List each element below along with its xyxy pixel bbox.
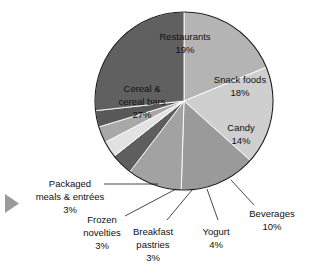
label-cereal-name-1: Cereal & <box>124 83 162 94</box>
label-cereal-value: 27% <box>132 109 152 120</box>
label-snack-foods-value: 18% <box>230 87 250 98</box>
leader-line-breakfast <box>167 190 192 220</box>
label-cereal-name-2: cereal bars <box>119 96 166 107</box>
label-candy-value: 14% <box>231 135 251 146</box>
label-frozen-value: 3% <box>95 240 109 251</box>
label-yogurt-name: Yogurt <box>202 226 229 237</box>
label-breakfast-name-1: Breakfast <box>133 226 173 237</box>
play-triangle-marker[interactable] <box>5 194 19 213</box>
label-breakfast-name-2: pastries <box>136 239 170 250</box>
label-yogurt-value: 4% <box>209 239 223 250</box>
label-packaged-name-2: meals & entrées <box>36 191 105 202</box>
label-restaurants-value: 19% <box>175 44 195 55</box>
outside-slice-labels: Packaged meals & entrées 3% Frozen novel… <box>36 178 295 263</box>
label-beverages-name: Beverages <box>249 208 295 219</box>
pie-chart-svg: Restaurants 19% Snack foods 18% Candy 14… <box>0 0 313 272</box>
label-packaged-value: 3% <box>63 204 77 215</box>
label-candy-name: Candy <box>227 122 255 133</box>
label-snack-foods-name: Snack foods <box>214 74 267 85</box>
label-frozen-name-2: novelties <box>83 227 121 238</box>
label-breakfast-value: 3% <box>146 252 160 263</box>
play-triangle-icon[interactable] <box>5 194 19 213</box>
label-frozen-name-1: Frozen <box>87 214 117 225</box>
label-restaurants-name: Restaurants <box>159 31 210 42</box>
label-beverages-value: 10% <box>262 221 282 232</box>
leader-line-frozen <box>125 189 176 216</box>
label-packaged-name-1: Packaged <box>49 178 91 189</box>
pie-chart-figure: Restaurants 19% Snack foods 18% Candy 14… <box>0 0 313 272</box>
leader-line-beverages <box>231 180 254 205</box>
leader-line-yogurt <box>207 189 218 220</box>
